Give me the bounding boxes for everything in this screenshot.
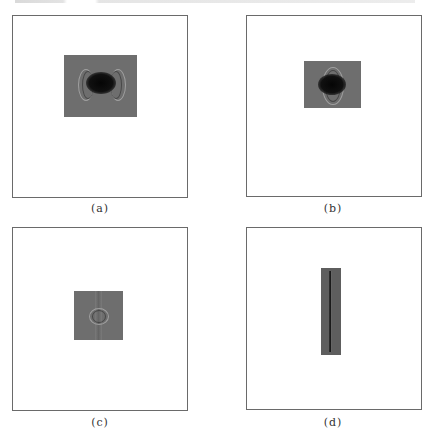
panel-d-frame bbox=[246, 227, 422, 410]
panel-c-frame bbox=[12, 227, 188, 411]
panel-d-image bbox=[321, 268, 341, 355]
panel-c-image bbox=[74, 291, 123, 340]
panel-d-label: (d) bbox=[303, 416, 363, 429]
panel-a-label: (a) bbox=[70, 202, 130, 215]
panel-a-frame bbox=[12, 15, 188, 198]
panel-b-image bbox=[304, 61, 361, 108]
panel-b-blob bbox=[318, 74, 346, 95]
panel-b-frame bbox=[246, 15, 422, 197]
panel-c-label: (c) bbox=[70, 416, 130, 429]
panel-a-blob bbox=[86, 72, 116, 94]
panel-a-image bbox=[64, 55, 137, 117]
panel-d-center-line bbox=[329, 271, 332, 352]
cropped-caption-text-top bbox=[15, 0, 415, 3]
panel-c-fringe bbox=[92, 310, 106, 323]
panel-b-label: (b) bbox=[303, 202, 363, 215]
